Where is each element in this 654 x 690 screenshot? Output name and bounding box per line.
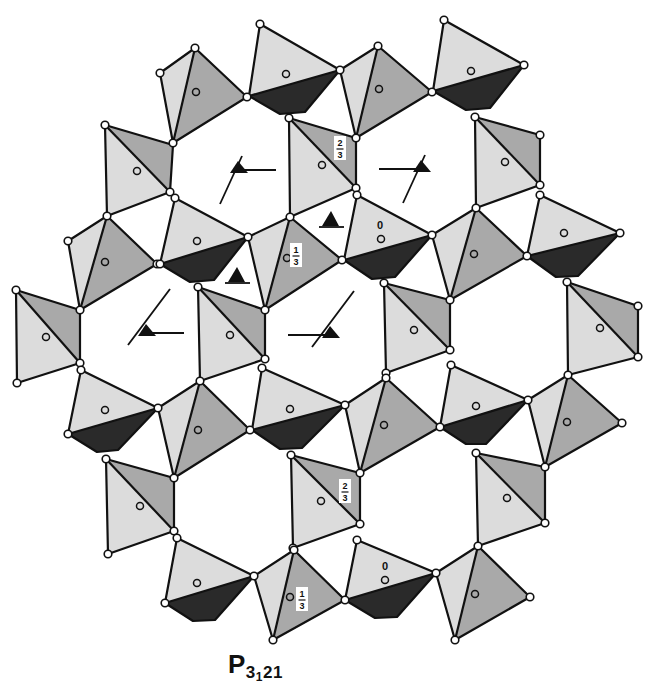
oxygen-atom-icon (524, 396, 532, 404)
oxygen-atom-icon (523, 252, 531, 260)
oxygen-atom-icon (244, 233, 252, 241)
oxygen-atom-icon (170, 474, 178, 482)
height-zero-label: 0 (377, 219, 383, 231)
tetrahedron (340, 46, 432, 138)
oxygen-atom-icon (104, 550, 112, 558)
oxygen-atom-icon (64, 430, 72, 438)
tetrahedron (440, 365, 528, 444)
tetrahedron (158, 381, 250, 478)
oxygen-atom-icon (536, 131, 544, 139)
space-group-letter: P (228, 649, 246, 679)
oxygen-atom-icon (341, 596, 349, 604)
oxygen-atom-icon (474, 542, 482, 550)
oxygen-atom-icon (285, 114, 293, 122)
tetrahedron (527, 195, 620, 277)
oxygen-atom-icon (440, 16, 448, 24)
screw-axis-3-1-icon (379, 155, 431, 203)
oxygen-atom-icon (77, 366, 85, 374)
tetrahedron (160, 48, 247, 143)
tetrahedron (475, 117, 540, 208)
oxygen-atom-icon (286, 213, 294, 221)
tetrahedron (567, 282, 638, 375)
oxygen-atom-icon (191, 44, 199, 52)
oxygen-atom-icon (634, 302, 642, 310)
svg-text:3: 3 (337, 150, 342, 160)
oxygen-atom-icon (520, 61, 528, 69)
tetrahedron (249, 24, 340, 114)
height-fraction-label: 23 (339, 479, 351, 503)
oxygen-atom-icon (256, 20, 264, 28)
oxygen-atom-icon (472, 449, 480, 457)
oxygen-atom-icon (446, 346, 454, 354)
oxygen-atom-icon (563, 278, 571, 286)
oxygen-atom-icon (616, 229, 624, 237)
oxygen-atom-icon (352, 134, 360, 142)
oxygen-atom-icon (338, 256, 346, 264)
space-group-subscript: 3 (246, 663, 256, 682)
oxygen-atom-icon (173, 534, 181, 542)
oxygen-atom-icon (353, 536, 361, 544)
oxygen-atom-icon (258, 364, 266, 372)
oxygen-atom-icon (290, 546, 298, 554)
oxygen-atom-icon (336, 66, 344, 74)
tetrahedron (105, 125, 173, 216)
oxygen-atom-icon (536, 181, 544, 189)
oxygen-atom-icon (161, 599, 169, 607)
oxygen-atom-icon (356, 469, 364, 477)
tetrahedron (289, 118, 356, 217)
oxygen-atom-icon (269, 636, 277, 644)
oxygen-atom-icon (374, 42, 382, 50)
height-fraction-label: 23 (334, 136, 346, 160)
tetrahedron (476, 453, 545, 546)
oxygen-atom-icon (446, 296, 454, 304)
space-group-tail: 21 (263, 663, 283, 682)
screw-axis-3-1-icon (220, 156, 276, 204)
oxygen-atom-icon (536, 191, 544, 199)
oxygen-atom-icon (261, 355, 269, 363)
oxygen-atom-icon (341, 401, 349, 409)
oxygen-atom-icon (243, 93, 251, 101)
tetrahedron (436, 546, 530, 640)
oxygen-atom-icon (156, 69, 164, 77)
oxygen-atom-icon (287, 451, 295, 459)
oxygen-atom-icon (451, 636, 459, 644)
svg-text:3: 3 (342, 493, 347, 503)
height-fraction-label: 13 (290, 243, 302, 267)
svg-text:3: 3 (299, 601, 304, 611)
oxygen-atom-icon (564, 371, 572, 379)
oxygen-atom-icon (102, 455, 110, 463)
oxygen-atom-icon (261, 306, 269, 314)
svg-text:3: 3 (293, 257, 298, 267)
svg-text:2: 2 (337, 138, 342, 148)
oxygen-atom-icon (356, 520, 364, 528)
tetrahedron (384, 283, 450, 373)
space-group-label: P3121 (228, 649, 283, 684)
space-group-screw-subscript: 1 (256, 670, 263, 684)
oxygen-atom-icon (436, 423, 444, 431)
oxygen-atom-icon (12, 286, 20, 294)
tetrahedron (68, 370, 158, 452)
oxygen-atom-icon (618, 419, 626, 427)
tetrahedron (68, 216, 157, 310)
svg-text:2: 2 (342, 481, 347, 491)
tetrahedron (345, 378, 440, 473)
oxygen-atom-icon (76, 306, 84, 314)
oxygen-atom-icon (472, 204, 480, 212)
tetrahedron (528, 375, 622, 467)
height-zero-label: 0 (382, 560, 388, 572)
tetrahedron (160, 198, 248, 282)
oxygen-atom-icon (196, 377, 204, 385)
oxygen-atom-icon (101, 121, 109, 129)
threefold-axis-icon (319, 211, 344, 227)
oxygen-atom-icon (541, 463, 549, 471)
tetrahedron (252, 368, 345, 449)
oxygen-atom-icon (194, 283, 202, 291)
svg-text:1: 1 (299, 589, 304, 599)
oxygen-atom-icon (428, 88, 436, 96)
tetrahedron (198, 287, 265, 381)
oxygen-atom-icon (526, 593, 534, 601)
threefold-axis-icon (225, 267, 250, 283)
oxygen-atom-icon (380, 279, 388, 287)
oxygen-atom-icon (428, 231, 436, 239)
oxygen-atom-icon (250, 572, 258, 580)
